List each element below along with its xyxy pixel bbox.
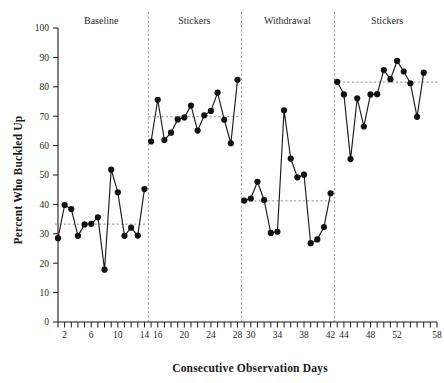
x-tick-label: 48 (366, 330, 376, 340)
data-point-marker (228, 140, 234, 146)
data-point-marker (221, 117, 227, 123)
data-point-marker (261, 197, 267, 203)
data-point-marker (68, 206, 74, 212)
data-point-marker (367, 91, 373, 97)
data-point-marker (328, 190, 334, 196)
data-point-marker (82, 221, 88, 227)
data-point-marker (294, 174, 300, 180)
data-point-marker (407, 80, 413, 86)
data-point-marker (274, 229, 280, 235)
x-tick-label: 52 (392, 330, 402, 340)
data-point-marker (414, 114, 420, 120)
y-tick-label: 90 (40, 53, 50, 63)
x-tick-label: 42 (326, 330, 336, 340)
data-point-marker (341, 91, 347, 97)
data-point-marker (181, 114, 187, 120)
data-point-marker (148, 138, 154, 144)
data-point-marker (387, 76, 393, 82)
data-point-marker (381, 67, 387, 73)
data-point-marker (308, 240, 314, 246)
data-point-marker (268, 230, 274, 236)
data-point-marker (248, 195, 254, 201)
data-point-marker (88, 221, 94, 227)
x-tick-label: 20 (180, 330, 190, 340)
data-point-marker (361, 123, 367, 129)
x-tick-label: 16 (153, 330, 163, 340)
y-tick-label: 80 (40, 82, 50, 92)
phase-label: Stickers (371, 15, 403, 26)
x-tick-label: 10 (113, 330, 123, 340)
data-point-marker (161, 137, 167, 143)
data-point-marker (214, 90, 220, 96)
data-point-marker (394, 58, 400, 64)
data-point-marker (354, 95, 360, 101)
data-point-marker (201, 112, 207, 118)
x-tick-label: 34 (273, 330, 283, 340)
data-point-marker (288, 155, 294, 161)
data-point-marker (121, 233, 127, 239)
data-point-marker (55, 235, 61, 241)
x-axis-title: Consecutive Observation Days (172, 362, 328, 375)
data-point-marker (374, 91, 380, 97)
x-tick-label: 58 (432, 330, 442, 340)
data-point-marker (155, 97, 161, 103)
data-point-marker (75, 233, 81, 239)
data-point-marker (128, 225, 134, 231)
x-tick-label: 2 (62, 330, 67, 340)
x-tick-label: 44 (339, 330, 349, 340)
phase-label: Stickers (178, 15, 210, 26)
data-point-marker (208, 108, 214, 114)
x-tick-label: 28 (233, 330, 243, 340)
data-point-marker (321, 224, 327, 230)
data-point-marker (401, 68, 407, 74)
data-point-marker (281, 107, 287, 113)
y-tick-label: 30 (40, 229, 50, 239)
data-point-marker (168, 130, 174, 136)
data-point-marker (334, 79, 340, 85)
y-tick-label: 10 (40, 288, 50, 298)
data-point-marker (188, 103, 194, 109)
x-tick-label: 38 (299, 330, 309, 340)
data-point-marker (135, 232, 141, 238)
x-tick-label: 6 (89, 330, 94, 340)
data-point-marker (347, 156, 353, 162)
y-tick-label: 50 (40, 170, 50, 180)
x-tick-label: 24 (206, 330, 216, 340)
data-point-marker (234, 77, 240, 83)
y-tick-label: 20 (40, 259, 50, 269)
data-point-marker (95, 214, 101, 220)
data-point-marker (101, 267, 107, 273)
phase-label: Withdrawal (264, 15, 311, 26)
data-point-marker (254, 179, 260, 185)
y-tick-label: 60 (40, 141, 50, 151)
y-tick-label: 40 (40, 200, 50, 210)
x-tick-label: 14 (140, 330, 150, 340)
y-tick-label: 100 (35, 23, 50, 33)
y-tick-label: 0 (44, 317, 49, 327)
data-point-marker (115, 189, 121, 195)
data-point-marker (421, 70, 427, 76)
y-axis-title: Percent Who Buckled Up (12, 116, 25, 245)
y-tick-label: 70 (40, 112, 50, 122)
data-point-marker (108, 167, 114, 173)
data-point-marker (241, 197, 247, 203)
phase-label: Baseline (84, 15, 119, 26)
data-point-marker (195, 128, 201, 134)
x-tick-label: 30 (246, 330, 256, 340)
data-point-marker (62, 202, 68, 208)
data-point-marker (175, 116, 181, 122)
data-point-marker (141, 186, 147, 192)
data-point-marker (301, 172, 307, 178)
data-point-marker (314, 236, 320, 242)
figure-container: BaselineStickersWithdrawalStickers 01020… (0, 0, 444, 383)
line-chart: BaselineStickersWithdrawalStickers 01020… (0, 0, 444, 383)
